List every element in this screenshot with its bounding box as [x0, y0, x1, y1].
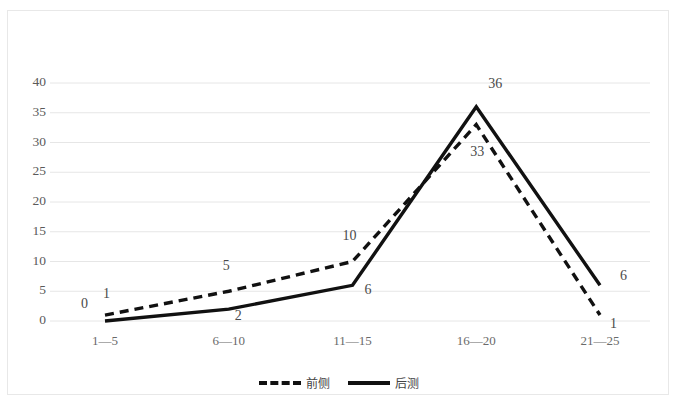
- x-axis-tick-label: 16—20: [431, 333, 521, 349]
- data-label: 5: [223, 258, 230, 274]
- legend-label: 前侧: [306, 374, 330, 391]
- x-axis-tick-label: 1—5: [60, 333, 150, 349]
- y-axis-tick-label: 30: [12, 134, 46, 150]
- data-label: 6: [365, 282, 372, 298]
- y-axis-tick-label: 25: [12, 163, 46, 179]
- legend-swatch-dashed-icon: [259, 381, 301, 385]
- y-axis-tick-label: 40: [12, 74, 46, 90]
- data-label: 1: [610, 316, 617, 332]
- x-axis-tick-label: 6—10: [184, 333, 274, 349]
- legend-label: 后测: [395, 374, 419, 391]
- legend-swatch-solid-icon: [348, 381, 390, 385]
- data-label: 6: [620, 268, 627, 284]
- series-line-2: [105, 107, 600, 321]
- y-axis-tick-label: 5: [12, 282, 46, 298]
- legend-item-2[interactable]: 后测: [348, 374, 419, 391]
- y-axis-tick-label: 20: [12, 193, 46, 209]
- y-axis-tick-label: 0: [12, 312, 46, 328]
- series-lines: [105, 107, 600, 321]
- data-label: 36: [488, 76, 502, 92]
- y-axis-tick-label: 35: [12, 104, 46, 120]
- data-label: 33: [470, 144, 484, 160]
- data-label: 2: [235, 308, 242, 324]
- data-label: 0: [81, 296, 88, 312]
- x-axis-tick-label: 21—25: [555, 333, 645, 349]
- x-axis-tick-label: 11—15: [308, 333, 398, 349]
- data-label: 10: [343, 228, 357, 244]
- data-label: 1: [103, 286, 110, 302]
- y-axis-tick-label: 15: [12, 223, 46, 239]
- chart-legend: 前侧后测: [0, 374, 677, 391]
- legend-item-1[interactable]: 前侧: [259, 374, 330, 391]
- y-axis-tick-label: 10: [12, 253, 46, 269]
